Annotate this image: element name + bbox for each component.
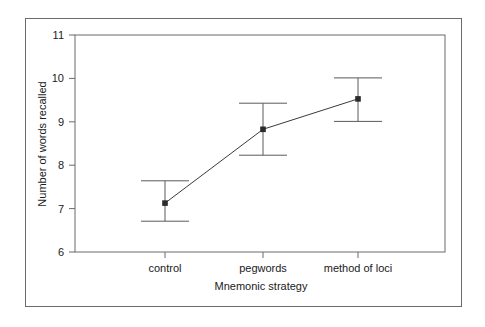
y-tick-label-6: 6 — [58, 246, 64, 258]
plot-area-frame — [75, 35, 445, 252]
y-tick-label-10: 10 — [52, 72, 64, 84]
y-tick-label-8: 8 — [58, 159, 64, 171]
x-axis-category-labels: control pegwords method of loci — [148, 262, 392, 274]
y-tick-label-9: 9 — [58, 116, 64, 128]
y-tick-label-7: 7 — [58, 203, 64, 215]
y-axis-title: Number of words recalled — [36, 81, 48, 206]
x-tick-label-pegwords: pegwords — [239, 262, 287, 274]
x-axis-title: Mnemonic strategy — [215, 280, 308, 292]
data-point-control — [162, 200, 168, 206]
data-point-pegwords — [260, 127, 266, 133]
figure-root: 11 10 9 8 7 6 control pegwords method of… — [0, 0, 485, 327]
x-tick-label-method-of-loci: method of loci — [324, 262, 392, 274]
y-axis-ticks — [69, 35, 75, 252]
x-tick-label-control: control — [148, 262, 181, 274]
y-axis-tick-labels: 11 10 9 8 7 6 — [52, 29, 64, 258]
y-tick-label-11: 11 — [53, 29, 64, 41]
x-axis-ticks — [165, 252, 358, 258]
line-chart: 11 10 9 8 7 6 control pegwords method of… — [0, 0, 485, 327]
data-point-method-of-loci — [355, 96, 361, 102]
